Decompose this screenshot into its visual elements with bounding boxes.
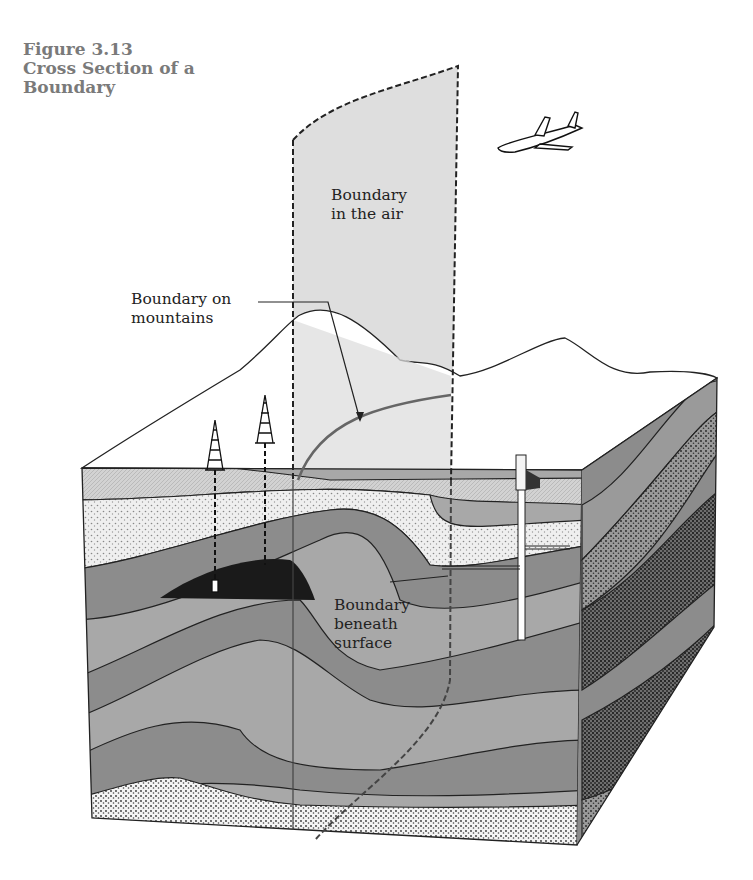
label-boundary-mountains: Boundary on mountains [131,290,231,328]
figure-caption: Figure 3.13 Cross Section of a Boundary [23,40,195,97]
boundary-cross-section-diagram [0,0,753,880]
label-boundary-beneath: Boundary beneath surface [334,596,410,653]
figure-number: Figure 3.13 [23,40,195,59]
airplane-icon [498,112,582,152]
figure-title-line1: Cross Section of a [23,59,195,78]
figure-title-line2: Boundary [23,78,195,97]
label-boundary-air: Boundary in the air [331,186,407,224]
